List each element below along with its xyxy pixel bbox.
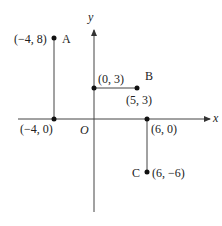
point-b-coord: (5, 3) — [126, 93, 152, 107]
point-m4-0-coord: (−4, 0) — [20, 122, 53, 136]
origin-label: O — [80, 123, 89, 137]
x-axis-label: x — [212, 111, 219, 125]
point-b-label: B — [145, 69, 153, 83]
point-a — [52, 36, 57, 41]
point-6-0 — [145, 117, 150, 122]
point-b — [135, 86, 140, 91]
point-c-coord: (6, −6) — [152, 166, 185, 180]
point-0-3-coord: (0, 3) — [98, 72, 124, 86]
point-0-3 — [92, 86, 97, 91]
point-c-label: C — [132, 166, 140, 180]
point-a-label: A — [62, 32, 71, 46]
coordinate-diagram: x y O (−4, 8) A (0, 3) B (5, 3) (−4, 0) … — [0, 0, 222, 226]
point-m4-0 — [52, 117, 57, 122]
point-6-0-coord: (6, 0) — [151, 122, 177, 136]
y-axis-label: y — [87, 10, 94, 24]
point-a-coord: (−4, 8) — [14, 32, 47, 46]
point-c — [145, 170, 150, 175]
